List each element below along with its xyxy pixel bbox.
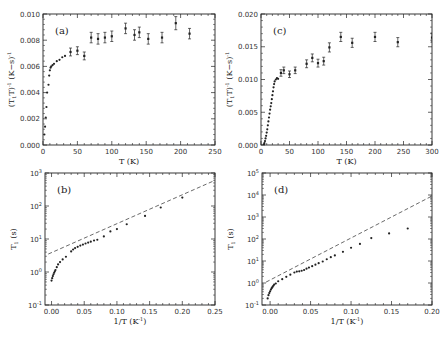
data-point (144, 215, 146, 217)
data-series (266, 196, 432, 299)
data-point (265, 135, 267, 137)
y-tick-label: 10-1 (245, 300, 259, 310)
x-tick-label: 0.20 (424, 308, 440, 316)
plot-frame (261, 14, 432, 145)
data-point (289, 274, 291, 276)
data-point (270, 102, 272, 104)
panel-label: (a) (55, 25, 69, 36)
data-point (326, 258, 328, 260)
data-point (43, 133, 45, 135)
data-point (330, 256, 332, 258)
y-tick-label: 100 (247, 278, 259, 288)
x-tick-label: 250 (397, 148, 410, 156)
data-point (45, 106, 47, 108)
data-point (82, 243, 84, 245)
panel-label: (b) (57, 184, 71, 195)
data-point (77, 246, 79, 248)
data-point (359, 243, 361, 245)
data-point (334, 254, 336, 256)
data-point (58, 59, 60, 61)
data-point (268, 116, 270, 118)
y-tick-label: 101 (247, 256, 259, 266)
data-point (305, 268, 307, 270)
data-point (72, 248, 74, 250)
y-tick-label: 101 (30, 234, 42, 244)
data-point-errorbar (104, 36, 106, 38)
data-point (268, 112, 270, 114)
data-point (61, 56, 63, 58)
data-point (70, 250, 72, 252)
data-point-errorbar (69, 51, 71, 53)
data-point (270, 105, 272, 107)
data-point (45, 116, 47, 118)
x-axis-label: T (K) (119, 157, 139, 166)
data-point (47, 84, 49, 86)
y-axis-label: (T1T)-1 (K−s)-1 (6, 52, 17, 107)
data-point (65, 256, 67, 258)
panel-label: (d) (274, 184, 288, 195)
data-point (274, 80, 276, 82)
x-tick-label: 150 (340, 148, 353, 156)
x-tick-label: 0.20 (175, 308, 191, 316)
data-point-errorbar (124, 27, 126, 29)
data-point (74, 247, 76, 249)
data-point (109, 230, 111, 232)
x-tick-label: 100 (105, 148, 118, 156)
data-point (271, 94, 273, 96)
x-tick-label: 200 (368, 148, 381, 156)
data-point (277, 78, 279, 80)
y-tick-label: 102 (30, 201, 42, 211)
x-tick-label: 0 (41, 148, 45, 156)
x-tick-label: 100 (311, 148, 324, 156)
data-point-errorbar (288, 73, 290, 75)
figure-canvas: 0501001502002500.0000.0020.0040.0060.008… (0, 0, 446, 338)
data-point (269, 109, 271, 111)
data-point (281, 278, 283, 280)
data-point-errorbar (306, 63, 308, 65)
data-point-errorbar (90, 36, 92, 38)
data-point (62, 258, 64, 260)
y-tick-label: 103 (30, 168, 42, 178)
data-point-errorbar (311, 57, 313, 59)
data-point (342, 251, 344, 253)
data-point (84, 242, 86, 244)
data-point-errorbar (280, 72, 282, 74)
x-tick-label: 150 (140, 148, 153, 156)
y-tick-label: 102 (247, 234, 259, 244)
data-point (267, 297, 269, 299)
data-point-errorbar (317, 62, 319, 64)
y-tick-label: 0.008 (20, 37, 40, 45)
data-point (87, 241, 89, 243)
chart-panel-a: 0501001502002500.0000.0020.0040.0060.008… (6, 11, 222, 167)
data-point (272, 90, 274, 92)
x-tick-label: 300 (425, 148, 438, 156)
data-point (59, 261, 61, 263)
data-point-errorbar (76, 50, 78, 52)
x-tick-label: 50 (285, 148, 294, 156)
y-tick-label: 100 (30, 267, 42, 277)
data-point (303, 269, 305, 271)
y-tick-label: 0.004 (20, 89, 41, 97)
data-point-errorbar (374, 36, 376, 38)
y-axis-label: T1 (s) (9, 228, 19, 249)
data-point (54, 269, 56, 271)
data-point (350, 247, 352, 249)
data-point (267, 124, 269, 126)
data-point (267, 294, 269, 296)
data-point (79, 245, 81, 247)
y-axis-label: (T1T)-1 (K−s)-1 (224, 52, 235, 107)
data-point (388, 232, 390, 234)
x-tick-label: 0 (259, 148, 263, 156)
x-axis-label: 1/T (K-1) (331, 316, 364, 326)
data-point-errorbar (83, 55, 85, 57)
data-point (266, 131, 268, 133)
x-tick-label: 0.05 (76, 308, 92, 316)
data-point (160, 206, 162, 208)
y-tick-label: 0.010 (238, 76, 258, 84)
data-point (277, 280, 279, 282)
data-point-errorbar (397, 41, 399, 43)
y-tick-label: 0.020 (238, 11, 258, 19)
data-point-errorbar (294, 69, 296, 71)
data-point (266, 128, 268, 130)
data-point (407, 227, 409, 229)
